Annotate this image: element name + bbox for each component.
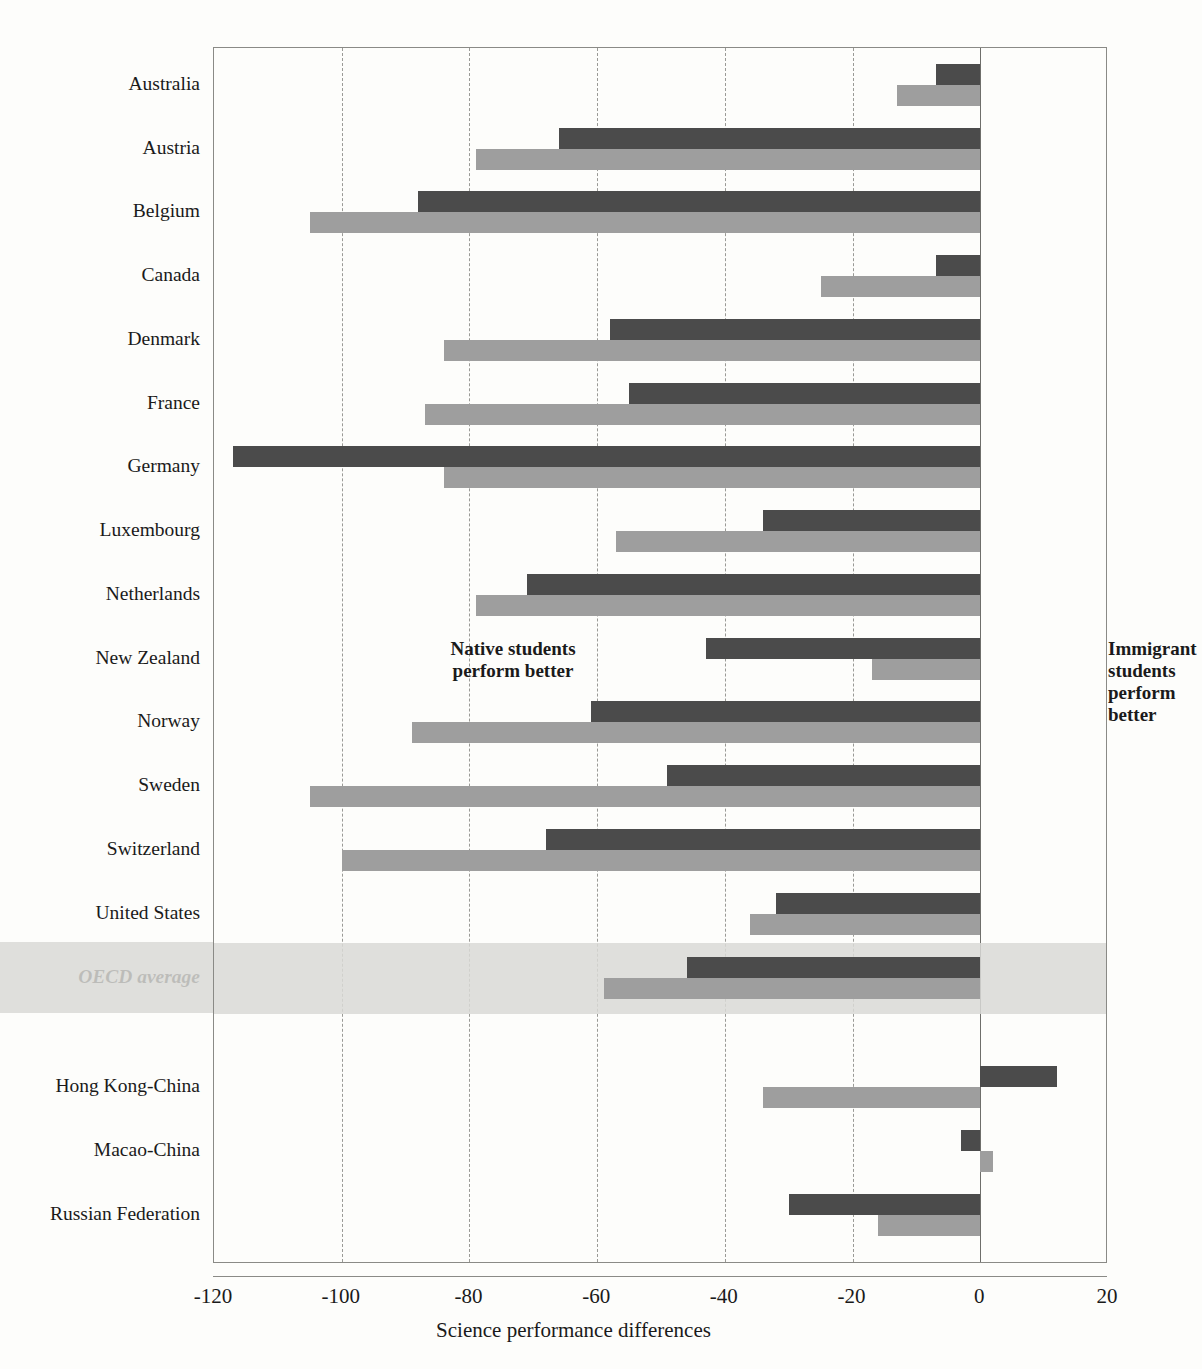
- x-tick--60: -60: [582, 1284, 610, 1309]
- bar-oecd-average-first-generation: [687, 957, 981, 978]
- bar-austria-second-generation: [476, 149, 980, 170]
- category-label-united-states: United States: [0, 903, 200, 923]
- bar-united-states-first-generation: [776, 893, 980, 914]
- bar-germany-second-generation: [444, 467, 980, 488]
- bar-macao-china-second-generation: [980, 1151, 993, 1172]
- bar-new-zealand-second-generation: [872, 659, 981, 680]
- x-tick--100: -100: [321, 1284, 360, 1309]
- category-label-australia: Australia: [0, 74, 200, 94]
- bar-belgium-first-generation: [418, 191, 980, 212]
- category-label-switzerland: Switzerland: [0, 839, 200, 859]
- bar-germany-first-generation: [233, 446, 980, 467]
- bar-russian-federation-second-generation: [878, 1215, 980, 1236]
- bar-france-first-generation: [629, 383, 980, 404]
- annotation-immigrant-line1: Immigrant: [1108, 638, 1202, 660]
- annotation-immigrant-line4: better: [1108, 704, 1202, 726]
- bar-luxembourg-second-generation: [616, 531, 980, 552]
- bar-norway-first-generation: [591, 701, 981, 722]
- bar-luxembourg-first-generation: [763, 510, 980, 531]
- annotation-native-line2: perform better: [398, 660, 628, 682]
- x-tick-20: 20: [1097, 1284, 1118, 1309]
- category-label-norway: Norway: [0, 711, 200, 731]
- bar-new-zealand-first-generation: [706, 638, 981, 659]
- bar-belgium-second-generation: [310, 212, 981, 233]
- bar-hong-kong-china-second-generation: [763, 1087, 980, 1108]
- annotation-native-line1: Native students: [398, 638, 628, 660]
- annotation-immigrant-students: Immigrant students perform better: [1108, 638, 1202, 725]
- bar-oecd-average-second-generation: [604, 978, 981, 999]
- bar-hong-kong-china-first-generation: [980, 1066, 1057, 1087]
- x-tick--20: -20: [838, 1284, 866, 1309]
- x-tick--120: -120: [194, 1284, 233, 1309]
- category-label-denmark: Denmark: [0, 329, 200, 349]
- bar-macao-china-first-generation: [961, 1130, 980, 1151]
- category-label-france: France: [0, 393, 200, 413]
- bar-austria-first-generation: [559, 128, 980, 149]
- bar-australia-first-generation: [936, 64, 981, 85]
- category-label-new-zealand: New Zealand: [0, 648, 200, 668]
- x-axis-line: [213, 1276, 1107, 1277]
- category-label-austria: Austria: [0, 138, 200, 158]
- x-tick-0: 0: [974, 1284, 985, 1309]
- bar-switzerland-second-generation: [342, 850, 981, 871]
- bar-norway-second-generation: [412, 722, 980, 743]
- bar-united-states-second-generation: [750, 914, 980, 935]
- bar-denmark-second-generation: [444, 340, 980, 361]
- category-label-macao-china: Macao-China: [0, 1140, 200, 1160]
- annotation-native-students: Native students perform better: [398, 638, 628, 682]
- category-label-canada: Canada: [0, 265, 200, 285]
- category-label-russian-federation: Russian Federation: [0, 1204, 200, 1224]
- annotation-immigrant-line3: perform: [1108, 682, 1202, 704]
- category-label-belgium: Belgium: [0, 201, 200, 221]
- category-label-germany: Germany: [0, 456, 200, 476]
- bar-russian-federation-first-generation: [789, 1194, 981, 1215]
- category-label-hong-kong-china: Hong Kong-China: [0, 1076, 200, 1096]
- bar-netherlands-second-generation: [476, 595, 980, 616]
- annotation-immigrant-line2: students: [1108, 660, 1202, 682]
- plot-area: [213, 47, 1107, 1263]
- bar-france-second-generation: [425, 404, 981, 425]
- x-tick--40: -40: [710, 1284, 738, 1309]
- x-tick--80: -80: [454, 1284, 482, 1309]
- bar-sweden-second-generation: [310, 786, 981, 807]
- bar-australia-second-generation: [897, 85, 980, 106]
- category-label-netherlands: Netherlands: [0, 584, 200, 604]
- category-label-luxembourg: Luxembourg: [0, 520, 200, 540]
- x-axis-title: Science performance differences: [0, 1318, 1147, 1343]
- bar-canada-first-generation: [936, 255, 981, 276]
- oecd-average-highlight-band-left: [0, 942, 213, 1014]
- category-label-sweden: Sweden: [0, 775, 200, 795]
- bar-denmark-first-generation: [610, 319, 980, 340]
- bar-switzerland-first-generation: [546, 829, 980, 850]
- bar-netherlands-first-generation: [527, 574, 980, 595]
- bar-sweden-first-generation: [667, 765, 980, 786]
- bar-canada-second-generation: [821, 276, 981, 297]
